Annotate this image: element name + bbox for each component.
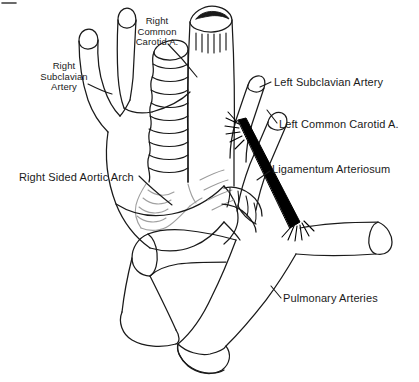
label-left-common-carotid: Left Common Carotid A. [279,118,399,130]
label-ligamentum-arteriosum: Ligamentum Arteriosum [272,163,390,175]
label-pulmonary-arteries: Pulmonary Arteries [283,292,378,304]
anatomical-diagram: Right Common Carotid A. Right Subclavian… [0,0,419,382]
label-right-common-carotid: Right Common Carotid A. [126,16,188,48]
aortic-corrugation [200,170,234,210]
ligament-lower-fibers [282,221,314,241]
leader-right-sided-aortic-arch [139,176,172,205]
esophagus-rings [149,64,188,173]
label-right-subclavian: Right Subclavian Artery [28,61,100,93]
trachea-striations [196,33,226,53]
trachea-structure [188,6,235,186]
label-right-sided-aortic-arch: Right Sided Aortic Arch [19,171,134,183]
anatomy-illustration [0,0,419,382]
label-left-subclavian: Left Subclavian Artery [274,76,383,88]
